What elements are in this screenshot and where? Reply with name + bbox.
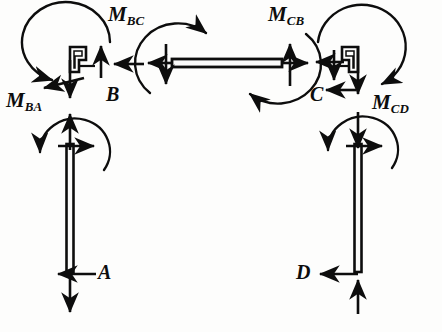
moment-label-MCB: MCB: [268, 4, 304, 27]
joint-label-b: B: [106, 84, 119, 104]
diagram-canvas: [0, 0, 442, 332]
moment-label-MCB-sub: CB: [287, 13, 305, 28]
member-beam: [172, 59, 282, 67]
moment-label-MBC-sub: BC: [127, 13, 145, 28]
moment-label-MCB-base: M: [268, 2, 287, 26]
moment-label-MCD: MCD: [372, 92, 409, 115]
moment-label-MBA-base: M: [6, 88, 25, 112]
moment-label-MCD-sub: CD: [391, 101, 409, 116]
support-label-a: A: [98, 262, 111, 282]
moment-label-MBA: MBA: [6, 90, 42, 113]
moment-arc-MCB-joint: [318, 5, 406, 84]
support-label-d: D: [296, 262, 310, 282]
frame-free-body-diagram: MBC MCB MBA MCD B C A D: [0, 0, 442, 332]
moment-label-MBC-base: M: [108, 2, 127, 26]
moment-label-MBA-sub: BA: [25, 99, 43, 114]
moment-label-MBC: MBC: [108, 4, 144, 27]
joint-block-c: [333, 47, 358, 72]
moment-arc-MCD-column: [328, 117, 398, 168]
moment-label-MCD-base: M: [372, 90, 391, 114]
member-right-column: [355, 144, 362, 272]
moment-arc-MBC-joint: [22, 2, 110, 80]
joint-block-b: [70, 47, 95, 72]
moment-arc-MBA-column: [40, 119, 110, 170]
member-left-column: [67, 144, 74, 272]
joint-label-c: C: [310, 84, 323, 104]
